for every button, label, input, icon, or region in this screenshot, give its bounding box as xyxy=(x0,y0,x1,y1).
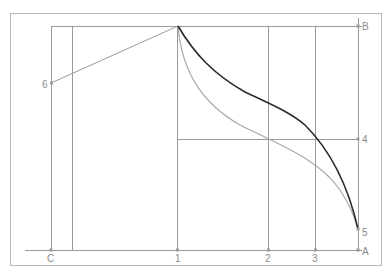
line-6-to-apex xyxy=(51,26,178,83)
label-b: B xyxy=(362,21,369,32)
label-a: A xyxy=(362,246,369,257)
label-1: 1 xyxy=(175,253,181,264)
label-2: 2 xyxy=(265,253,271,264)
point-markers xyxy=(50,25,360,252)
label-6: 6 xyxy=(42,79,48,90)
label-5: 5 xyxy=(362,227,368,238)
label-3: 3 xyxy=(312,253,318,264)
label-4: 4 xyxy=(362,134,368,145)
label-c: C xyxy=(47,253,54,264)
pattern-diagram: B 4 5 A 6 C 1 2 3 xyxy=(0,0,389,275)
